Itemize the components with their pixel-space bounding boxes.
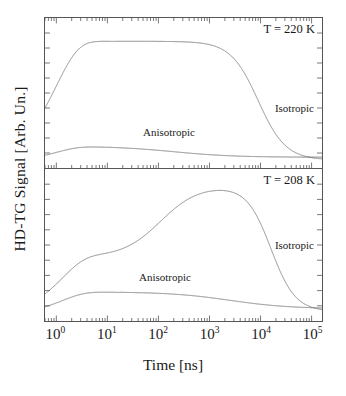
panel-220k-curves [45,18,322,168]
x-tick-label-1: 101 [97,325,117,343]
panel-220k-isotropic-label: Isotropic [275,102,314,114]
y-axis-label: HD-TG Signal [Arb. Un.] [11,9,29,329]
panel-220k: T = 220 K Isotropic Anisotropic [44,17,323,169]
x-tick-label-2: 102 [148,325,168,343]
curve-anisotropic [45,292,322,308]
x-tick-label-4: 104 [251,325,271,343]
plot-stack: T = 220 K Isotropic Anisotropic T = 208 … [44,17,323,322]
panel-220k-temperature-label: T = 220 K [263,22,315,37]
panel-208k-anisotropic-label: Anisotropic [139,271,191,283]
x-axis-label: Time [ns] [0,356,346,374]
panel-208k-isotropic-label: Isotropic [275,239,314,251]
x-tick-label-3: 103 [200,325,220,343]
curve-isotropic [45,41,322,159]
panel-220k-anisotropic-label: Anisotropic [143,126,195,138]
panel-208k-temperature-label: T = 208 K [263,173,315,188]
x-axis-ticks: 100101102103104105 [44,325,323,349]
x-tick-label-5: 105 [303,325,323,343]
x-tick-label-0: 100 [46,325,66,343]
figure-hd-tg-signal: HD-TG Signal [Arb. Un.] T = 220 K Isotro… [0,0,346,396]
curve-anisotropic [45,147,322,157]
panel-208k: T = 208 K Isotropic Anisotropic [44,169,323,322]
